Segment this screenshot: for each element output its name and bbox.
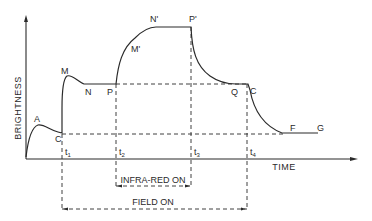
x-axis-arrow-icon [350,157,358,161]
point-label-c-start: C [55,134,62,144]
time-mark-t2: t2 [119,147,126,158]
brightness-time-diagram: BRIGHTNESS TIME A C M N P M' N' P' Q C F… [0,0,372,221]
point-label-c-end: C [250,86,257,96]
point-label-f: F [290,123,296,133]
y-axis-arrow-icon [24,15,28,22]
point-label-n: N [85,87,92,97]
y-axis-label: BRIGHTNESS [13,76,23,140]
point-label-p: P [107,87,113,97]
point-label-m: M [61,66,69,76]
x-axis-label: TIME [272,162,296,172]
time-mark-t1: t1 [65,147,72,158]
time-mark-t3: t3 [194,147,201,158]
point-label-a: A [34,114,40,124]
field-on-label: FIELD ON [132,197,174,207]
arrow-right-icon [185,185,190,188]
brightness-curve [26,27,318,157]
point-label-g: G [317,123,324,133]
point-label-p-prime: P' [189,14,197,24]
point-label-m-prime: M' [131,44,140,54]
point-label-q: Q [231,87,238,97]
infra-red-on-label: INFRA-RED ON [121,175,186,185]
point-label-n-prime: N' [150,14,158,24]
arrow-right-icon [241,208,246,211]
time-marks: t1 t2 t3 t4 [65,147,257,158]
field-on-interval: FIELD ON [62,197,247,211]
arrow-left-icon [63,208,68,211]
infra-red-on-interval: INFRA-RED ON [116,175,191,188]
time-mark-t4: t4 [250,147,257,158]
